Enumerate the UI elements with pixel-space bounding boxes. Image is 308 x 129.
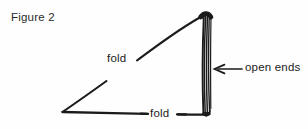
figure-caption: Figure 2 — [11, 12, 55, 24]
fold-label-upper: fold — [107, 53, 126, 65]
open-ends-stroke-bundle — [202, 14, 211, 115]
open-ends-stroke-3 — [207, 17, 208, 115]
open-ends-stroke-4 — [209, 17, 210, 113]
hypotenuse-fold-edge — [63, 81, 107, 112]
hypotenuse-fold-edge-cont — [137, 16, 204, 61]
figure-canvas: Figure 2 fold fold open ends — [0, 0, 308, 129]
open-ends-stroke-1 — [203, 16, 204, 113]
arrow-left-icon — [215, 65, 243, 74]
open-ends-stroke-2 — [204, 16, 205, 113]
fold-label-lower: fold — [150, 108, 169, 120]
open-ends-label: open ends — [245, 62, 301, 74]
bottom-fold-edge — [63, 112, 148, 114]
